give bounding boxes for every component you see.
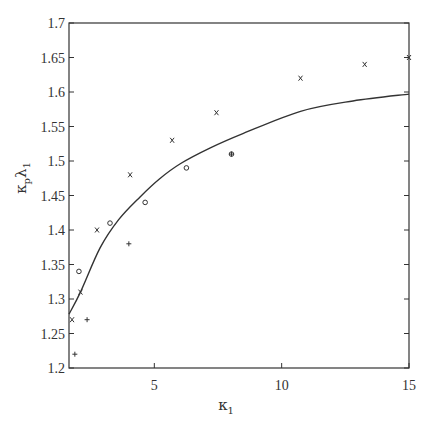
x-tick-label: 15: [402, 378, 416, 393]
plus-marker: [72, 352, 77, 357]
y-tick-label: 1.7: [48, 16, 66, 31]
x-axis-label: κ1: [218, 396, 234, 416]
x-marker: [128, 172, 132, 177]
y-tick-label: 1.45: [41, 189, 66, 204]
x-marker: [70, 317, 74, 322]
y-axis-label: κpλ1: [12, 162, 32, 194]
theoretical-curve: [69, 94, 409, 314]
y-tick-label: 1.5: [48, 154, 66, 169]
x-marker: [363, 62, 367, 67]
y-tick-label: 1.35: [41, 258, 66, 273]
curve-path: [69, 94, 409, 314]
plus-marker: [85, 317, 90, 322]
x-axis-label-sub: 1: [228, 405, 234, 416]
plot-axes: [69, 23, 409, 368]
circle-marker: [108, 221, 113, 226]
scatter-chart: 1.21.251.31.351.41.451.51.551.61.651.7 5…: [0, 0, 428, 433]
y-axis-label-main2: λ: [12, 168, 30, 178]
plot-frame: [69, 23, 409, 368]
y-tick-label: 1.3: [48, 292, 66, 307]
circle-marker: [184, 166, 189, 171]
x-marker: [170, 138, 174, 143]
circle-marker: [77, 269, 82, 274]
circle-marker: [143, 200, 148, 205]
y-tick-label: 1.2: [48, 361, 66, 376]
plus-marker: [126, 241, 131, 246]
x-marker: [95, 228, 99, 233]
y-tick-label: 1.65: [41, 51, 66, 66]
x-marker: [299, 76, 303, 81]
y-tick-label: 1.55: [41, 120, 66, 135]
x-tick-label: 10: [275, 378, 289, 393]
y-tick-label: 1.25: [41, 327, 66, 342]
x-tick-label: 5: [151, 378, 158, 393]
x-marker: [78, 290, 82, 295]
y-axis-label-sub2: 1: [21, 162, 32, 168]
y-tick-label: 1.6: [48, 85, 66, 100]
y-axis-ticks: 1.21.251.31.351.41.451.51.551.61.651.7: [41, 16, 410, 376]
y-tick-label: 1.4: [48, 223, 66, 238]
x-marker: [214, 110, 218, 115]
